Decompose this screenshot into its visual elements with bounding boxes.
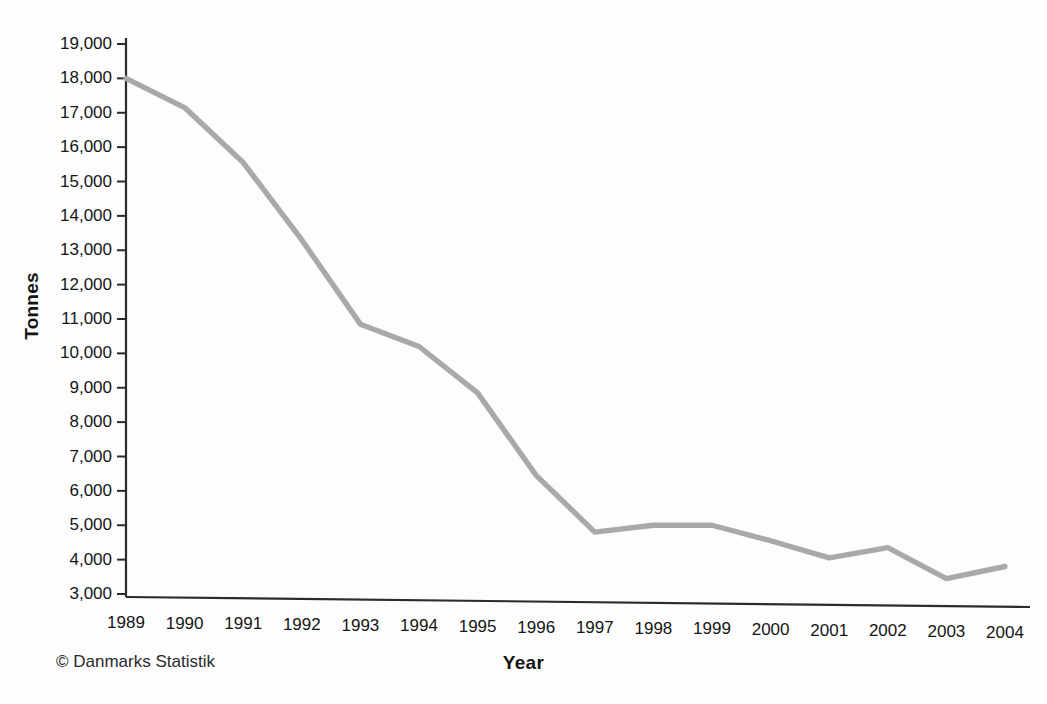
- line-chart-plot: [0, 0, 1047, 704]
- y-axis-tick-label: 15,000: [28, 172, 112, 192]
- x-axis-tick-label: 2002: [869, 621, 907, 641]
- source-credit: © Danmarks Statistik: [56, 652, 215, 672]
- chart-figure: 3,0004,0005,0006,0007,0008,0009,00010,00…: [0, 0, 1047, 704]
- y-axis-tick-label: 3,000: [28, 584, 112, 604]
- y-axis-title: Tonnes: [14, 236, 50, 376]
- x-axis-tick-label: 2001: [810, 621, 848, 641]
- x-axis-tick-label: 1998: [634, 619, 672, 639]
- x-axis-tick-label: 1990: [166, 614, 204, 634]
- y-axis-tick-label: 8,000: [28, 412, 112, 432]
- x-axis-tick-label: 1994: [400, 616, 438, 636]
- x-axis-tick-label: 1991: [224, 614, 262, 634]
- y-axis-tick-label: 4,000: [28, 550, 112, 570]
- y-axis-title-text: Tonnes: [21, 272, 43, 339]
- y-axis-tick-label: 5,000: [28, 515, 112, 535]
- x-axis-tick-label: 1993: [341, 616, 379, 636]
- y-axis-tick-label: 18,000: [28, 68, 112, 88]
- y-axis-tick-label: 17,000: [28, 103, 112, 123]
- chart-series-layer: [126, 78, 1005, 578]
- y-axis-tick-label: 19,000: [28, 34, 112, 54]
- x-axis-tick-label: 2003: [927, 622, 965, 642]
- y-axis-tick-label: 9,000: [28, 378, 112, 398]
- x-axis-tick-label: 1995: [459, 617, 497, 637]
- x-axis-tick-label: 2004: [986, 623, 1024, 643]
- x-axis-tick-label: 1996: [517, 618, 555, 638]
- x-axis-tick-label: 1989: [107, 613, 145, 633]
- x-axis-tick-label: 1997: [576, 618, 614, 638]
- y-axis-tick-marks: [117, 44, 126, 594]
- y-axis-tick-label: 14,000: [28, 206, 112, 226]
- y-axis-tick-label: 7,000: [28, 447, 112, 467]
- x-axis-tick-label: 1999: [693, 619, 731, 639]
- y-axis-tick-label: 6,000: [28, 481, 112, 501]
- y-axis-tick-label: 16,000: [28, 137, 112, 157]
- x-axis-tick-label: 2000: [752, 620, 790, 640]
- x-axis-line: [126, 597, 1030, 607]
- data-line-tonnes: [126, 78, 1005, 578]
- chart-axes: [117, 38, 1030, 607]
- x-axis-tick-label: 1992: [283, 615, 321, 635]
